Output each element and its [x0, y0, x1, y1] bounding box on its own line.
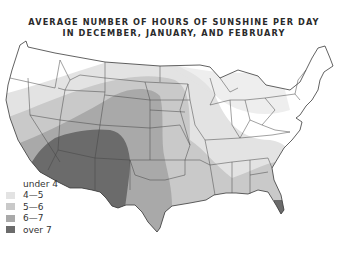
legend-swatch: [6, 192, 15, 199]
sunshine-map-figure: AVERAGE NUMBER OF HOURS OF SUNSHINE PER …: [0, 0, 348, 253]
legend-swatch: [6, 215, 15, 222]
legend-label: 6—7: [23, 213, 43, 223]
legend-item-4-5: 4—5: [6, 190, 58, 202]
map-legend: under 4 4—5 5—6 6—7 over 7: [6, 178, 58, 236]
legend-item-5-6: 5—6: [6, 201, 58, 213]
legend-label: 4—5: [23, 190, 43, 200]
legend-label: over 7: [23, 225, 52, 235]
legend-swatch: [6, 226, 15, 233]
legend-item-over-7: over 7: [6, 224, 58, 236]
legend-label: 5—6: [23, 202, 43, 212]
legend-item-under-4: under 4: [6, 178, 58, 190]
legend-swatch: [6, 180, 15, 187]
legend-item-6-7: 6—7: [6, 213, 58, 225]
legend-swatch: [6, 203, 15, 210]
legend-label: under 4: [23, 179, 58, 189]
